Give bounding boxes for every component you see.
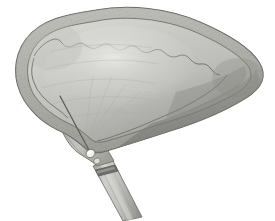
gallbladder-illustration [0, 0, 275, 221]
illustration-canvas: Gallbladder with transhepatic needle and… [0, 0, 275, 221]
